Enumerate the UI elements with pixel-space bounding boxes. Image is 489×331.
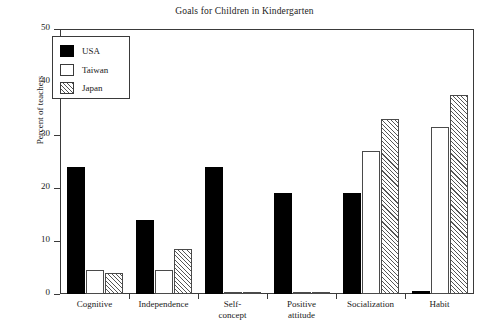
bar-japan-5 [450, 95, 468, 294]
bar-usa-1 [136, 220, 154, 294]
bar-taiwan-1 [155, 270, 173, 294]
bar-usa-2 [205, 167, 223, 294]
bar-usa-4 [343, 193, 361, 294]
bar-japan-2 [243, 292, 261, 294]
legend-label-usa: USA [82, 46, 100, 56]
bar-japan-0 [105, 273, 123, 294]
legend-item-japan: Japan [60, 80, 103, 95]
bar-usa-5 [412, 291, 430, 294]
legend-swatch-usa-icon [60, 45, 74, 57]
bar-taiwan-5 [431, 127, 449, 294]
legend-item-taiwan: Taiwan [60, 62, 108, 77]
legend-swatch-taiwan-icon [60, 64, 74, 76]
bar-usa-0 [67, 167, 85, 294]
bar-taiwan-2 [224, 292, 242, 294]
bar-japan-4 [381, 119, 399, 294]
bar-taiwan-3 [293, 292, 311, 294]
bar-japan-1 [174, 249, 192, 294]
legend-label-japan: Japan [82, 83, 103, 93]
chart-container: Goals for Children in Kindergarten Perce… [0, 0, 489, 331]
bar-usa-3 [274, 193, 292, 294]
bar-taiwan-0 [86, 270, 104, 294]
legend-swatch-japan-icon [60, 82, 74, 94]
legend-item-usa: USA [60, 43, 100, 58]
chart-legend: USA Taiwan Japan [52, 36, 130, 99]
bar-taiwan-4 [362, 151, 380, 294]
legend-label-taiwan: Taiwan [82, 65, 108, 75]
bar-japan-3 [312, 292, 330, 294]
